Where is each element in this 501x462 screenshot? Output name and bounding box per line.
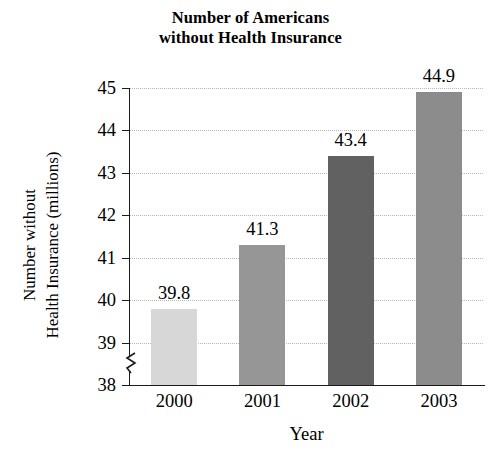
gridline	[130, 88, 483, 89]
bar-value-label: 43.4	[311, 131, 391, 150]
y-axis-tick	[122, 343, 130, 344]
y-axis-tick-label: 39	[76, 334, 116, 353]
bar-value-label: 41.3	[222, 220, 302, 239]
x-axis-tick-label: 2001	[222, 392, 302, 411]
y-axis-tick-label: 43	[76, 164, 116, 183]
chart-title: Number of Americans without Health Insur…	[0, 8, 501, 48]
y-axis-tick-label: 44	[76, 121, 116, 140]
y-axis-spine	[129, 88, 130, 357]
y-axis-tick-label: 45	[76, 79, 116, 98]
y-axis-tick	[122, 385, 130, 386]
plot-area	[130, 88, 483, 385]
bar[interactable]	[151, 309, 197, 385]
y-axis-tick	[122, 130, 130, 131]
x-axis-tick-label: 2000	[134, 392, 214, 411]
bar-value-label: 39.8	[134, 284, 214, 303]
bar-value-label: 44.9	[399, 67, 479, 86]
bar[interactable]	[239, 245, 285, 385]
x-axis-tick-label: 2003	[399, 392, 479, 411]
y-axis-tick-label: 40	[76, 291, 116, 310]
y-axis-tick-label: 42	[76, 206, 116, 225]
y-axis-tick	[122, 215, 130, 216]
x-axis-tick-label: 2002	[311, 392, 391, 411]
y-axis-tick	[122, 88, 130, 89]
bar-chart: Number of Americans without Health Insur…	[0, 0, 501, 462]
y-axis-label-line-2: Health Insurance (millions)	[41, 152, 64, 339]
y-axis-label-line-1: Number without	[18, 152, 41, 339]
y-axis-tick-label: 41	[76, 249, 116, 268]
chart-title-line-1: Number of Americans	[0, 8, 501, 28]
x-axis-label: Year	[130, 424, 483, 445]
x-axis-spine	[129, 385, 485, 386]
bar[interactable]	[416, 92, 462, 385]
y-axis-label: Number without Health Insurance (million…	[14, 100, 68, 390]
chart-title-line-2: without Health Insurance	[0, 28, 501, 48]
y-axis-tick	[122, 258, 130, 259]
y-axis-tick	[122, 173, 130, 174]
axis-break-zigzag-icon	[122, 352, 140, 374]
bar[interactable]	[328, 156, 374, 385]
y-axis-tick	[122, 300, 130, 301]
y-axis-tick-label: 38	[76, 376, 116, 395]
